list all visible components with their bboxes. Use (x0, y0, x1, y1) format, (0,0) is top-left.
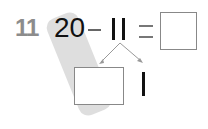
decomposition-left-box[interactable] (74, 67, 124, 105)
decomposition-arrows (0, 0, 208, 129)
decomposition-right-value (142, 72, 145, 96)
